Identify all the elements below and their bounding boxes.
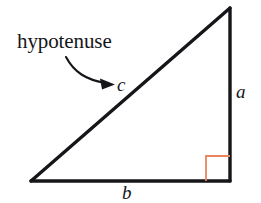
right-angle-marker: [206, 156, 230, 181]
side-c-label: c: [117, 75, 125, 94]
side-a-label: a: [236, 82, 246, 101]
right-triangle-figure: hypotenuse c a b: [0, 0, 261, 203]
side-b-label: b: [122, 183, 132, 202]
hypotenuse-pointer-arrowhead: [100, 79, 115, 90]
hypotenuse-label: hypotenuse: [17, 31, 112, 52]
hypotenuse-pointer-arrow: [66, 57, 106, 83]
